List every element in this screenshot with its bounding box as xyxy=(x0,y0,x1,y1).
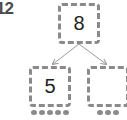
dot-icon xyxy=(39,110,45,115)
dot-icon xyxy=(97,110,103,115)
dots-right xyxy=(97,110,119,115)
dot-icon xyxy=(63,110,69,115)
dot-icon xyxy=(105,110,111,115)
arrow-right xyxy=(79,44,106,64)
arrow-left xyxy=(53,44,79,64)
dot-icon xyxy=(55,110,61,115)
dots-left xyxy=(31,110,69,115)
dot-icon xyxy=(113,110,119,115)
dot-icon xyxy=(47,110,53,115)
problem-number: 12 xyxy=(0,0,13,17)
whole-box: 8 xyxy=(58,3,100,44)
dot-icon xyxy=(31,110,37,115)
part-right-box[interactable] xyxy=(87,66,127,107)
part-left-box: 5 xyxy=(29,66,71,107)
